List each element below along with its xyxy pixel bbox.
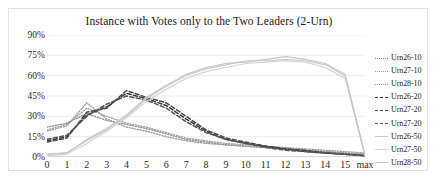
series-line	[47, 96, 365, 156]
x-axis-tick-label: 3	[104, 159, 109, 170]
plot-area	[47, 35, 365, 157]
legend-item-label: Urn28-10	[391, 79, 421, 88]
x-axis-tick-label: 8	[204, 159, 209, 170]
legend-item-label: Urn27-10	[391, 66, 421, 75]
x-axis-tick-label: 15	[340, 159, 350, 170]
legend-item[interactable]: Urn28-10	[375, 77, 438, 90]
legend-item[interactable]: Urn27-20	[375, 116, 438, 129]
legend-line-swatch-icon	[375, 67, 388, 75]
x-axis-tick-label: 6	[164, 159, 169, 170]
y-axis-tick-label: 45%	[11, 91, 45, 101]
series-lines	[47, 57, 365, 156]
x-axis-tick-label: 9	[223, 159, 228, 170]
legend-item-label: Urn26-10	[391, 53, 421, 62]
legend-item[interactable]: Urn27-10	[375, 64, 438, 77]
legend-line-swatch-icon	[375, 145, 388, 153]
x-axis-tick-label: 4	[124, 159, 129, 170]
x-axis-tick-label: 7	[184, 159, 189, 170]
x-axis-tick-label: max	[356, 159, 373, 170]
legend-item[interactable]: Urn26-50	[375, 130, 438, 143]
legend-line-swatch-icon	[375, 106, 388, 114]
x-axis: 0123456789101112131415max	[47, 159, 377, 175]
legend-item[interactable]: Urn26-10	[375, 51, 438, 64]
x-axis-tick-label: 14	[320, 159, 330, 170]
x-axis-tick-label: 12	[281, 159, 291, 170]
legend-item-label: Urn26-50	[391, 132, 421, 141]
y-axis-tick-label: 60%	[11, 71, 45, 81]
y-axis-tick-label: 15%	[11, 132, 45, 142]
series-line	[47, 91, 365, 156]
x-axis-tick-label: 0	[45, 159, 50, 170]
legend-item-label: Urn26-20	[391, 92, 421, 101]
y-axis-tick-label: 0%	[11, 152, 45, 162]
chart-legend: Urn26-10Urn27-10Urn28-10Urn26-20Urn27-20…	[375, 51, 438, 169]
legend-item-label: Urn27-50	[391, 145, 421, 154]
y-axis-tick-label: 90%	[11, 30, 45, 40]
x-axis-tick-label: 1	[64, 159, 69, 170]
legend-line-swatch-icon	[375, 80, 388, 88]
series-line	[47, 114, 365, 155]
chart-title: Instance with Votes only to the Two Lead…	[49, 15, 369, 27]
legend-line-swatch-icon	[375, 93, 388, 101]
y-axis-tick-label: 75%	[11, 50, 45, 60]
legend-line-swatch-icon	[375, 54, 388, 62]
x-axis-tick-label: 2	[84, 159, 89, 170]
legend-item[interactable]: Urn27-20	[375, 103, 438, 116]
legend-item-label: Urn27-20	[391, 105, 421, 114]
chart-frame: Instance with Votes only to the Two Lead…	[8, 8, 428, 171]
series-line	[47, 93, 365, 155]
y-axis-tick-label: 30%	[11, 111, 45, 121]
x-axis-tick-label: 5	[144, 159, 149, 170]
x-axis-tick-label: 10	[241, 159, 251, 170]
legend-item-label: Urn27-20	[391, 119, 421, 128]
legend-item[interactable]: Urn26-20	[375, 90, 438, 103]
legend-item[interactable]: Urn28-50	[375, 156, 438, 169]
legend-line-swatch-icon	[375, 158, 388, 166]
x-axis-tick-label: 11	[261, 159, 271, 170]
legend-line-swatch-icon	[375, 132, 388, 140]
plot-svg	[47, 35, 365, 157]
x-axis-tick-label: 13	[300, 159, 310, 170]
legend-line-swatch-icon	[375, 119, 388, 127]
series-line	[47, 61, 365, 156]
y-axis: 90%75%60%45%30%15%0%	[9, 35, 45, 157]
legend-item-label: Urn28-50	[391, 158, 421, 167]
legend-item[interactable]: Urn27-50	[375, 143, 438, 156]
